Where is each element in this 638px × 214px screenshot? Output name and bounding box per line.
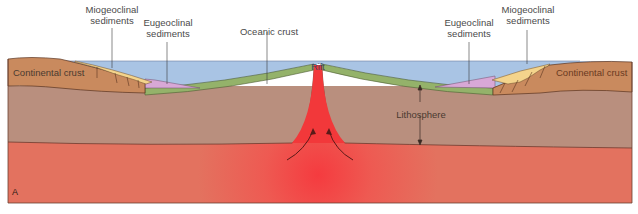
label-eugeoclinal-right: Eugeoclinal sediments bbox=[441, 17, 497, 39]
rift-diagram bbox=[0, 0, 638, 214]
label-rift: Rift bbox=[306, 62, 330, 73]
label-continental-crust-left: Continental crust bbox=[13, 67, 84, 78]
label-miogeoclinal-right: Miogeoclinal sediments bbox=[500, 4, 556, 26]
panel-letter: A bbox=[12, 187, 18, 198]
label-oceanic-crust: Oceanic crust bbox=[234, 26, 304, 37]
label-lithosphere: Lithosphere bbox=[395, 109, 447, 120]
label-continental-crust-right: Continental crust bbox=[556, 67, 627, 78]
label-miogeoclinal-left: Miogeoclinal sediments bbox=[84, 4, 140, 26]
label-eugeoclinal-left: Eugeoclinal sediments bbox=[140, 17, 196, 39]
